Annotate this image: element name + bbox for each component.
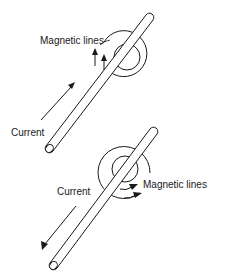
field-direction-arrows-bottom	[120, 184, 142, 198]
arrowhead-icon	[92, 48, 98, 55]
arrowhead-icon	[129, 184, 138, 190]
current-label-top: Current	[11, 128, 44, 138]
magnetic-lines-label-top: Magnetic lines	[40, 36, 104, 46]
wire-bottom	[48, 127, 158, 271]
electromagnetism-diagram: Magnetic lines Current Current Magnetic …	[0, 0, 226, 279]
magnetic-lines-label-bottom: Magnetic lines	[143, 180, 207, 190]
panel-downward-current	[41, 127, 158, 271]
arrowhead-icon	[101, 54, 107, 61]
arrowhead-icon	[133, 192, 142, 198]
field-direction-arrows-top	[92, 48, 107, 70]
current-label-bottom: Current	[57, 187, 90, 197]
arrowhead-icon	[68, 82, 75, 89]
diagram-drawing	[0, 0, 226, 279]
